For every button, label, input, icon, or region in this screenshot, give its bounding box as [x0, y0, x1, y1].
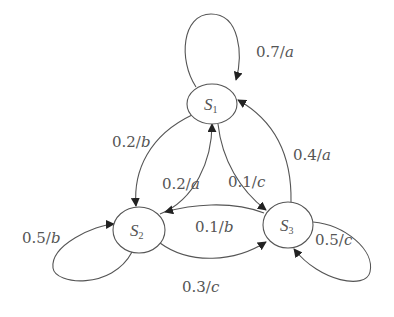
label-s1-s2: 0.2/b — [112, 133, 151, 151]
state-s2-sub: 2 — [139, 230, 144, 241]
state-s2: S2 — [113, 207, 165, 253]
state-transition-diagram: S1 S2 S3 0.7/a 0.2/b 0.2/a 0.1/c 0.4/a 0… — [0, 0, 394, 317]
edge-s3-s2 — [165, 205, 264, 213]
state-s3-sub: 3 — [289, 225, 294, 236]
label-s1-s3: 0.1/c — [228, 173, 266, 191]
label-s2-s1: 0.2/a — [162, 175, 200, 193]
label-s2-s2: 0.5/b — [22, 229, 61, 247]
label-s2-s3: 0.3/c — [182, 278, 220, 296]
label-s3-s1: 0.4/a — [293, 146, 331, 164]
edge-s2-s3 — [160, 242, 266, 258]
label-s1-s1: 0.7/a — [256, 43, 294, 61]
state-s1-sub: 1 — [213, 104, 218, 115]
state-s3: S3 — [263, 202, 313, 248]
edge-s1-s3 — [218, 124, 266, 210]
label-s3-s2: 0.1/b — [195, 218, 234, 236]
state-s1: S1 — [187, 84, 237, 124]
edge-s2-s1 — [160, 124, 212, 214]
edge-s1-s1 — [185, 14, 239, 87]
label-s3-s3: 0.5/c — [315, 231, 353, 249]
